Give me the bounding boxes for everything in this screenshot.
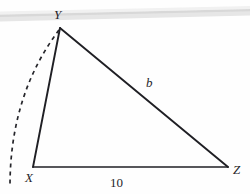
base-length-label: 10 xyxy=(110,176,123,189)
side-yz xyxy=(60,28,228,167)
triangle-xyz xyxy=(33,28,228,167)
vertex-label-z: Z xyxy=(233,163,240,176)
side-label-b: b xyxy=(146,76,153,89)
vertex-label-x: X xyxy=(25,171,33,184)
side-xy xyxy=(33,28,60,167)
scan-artifact-band xyxy=(0,8,250,18)
vertex-label-y: Y xyxy=(54,8,61,21)
triangle-figure: Y X Z b 10 xyxy=(0,0,250,194)
figure-canvas xyxy=(0,0,250,194)
